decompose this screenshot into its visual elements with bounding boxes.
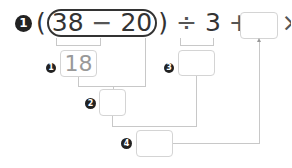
problem-number-badge: 1 bbox=[15, 15, 32, 32]
operand-a: 38 bbox=[52, 8, 84, 37]
divide-sign: ÷ bbox=[176, 8, 197, 37]
open-paren: ( bbox=[36, 8, 46, 37]
minus-sign: − bbox=[92, 8, 113, 37]
step-2-box[interactable] bbox=[99, 89, 126, 116]
close-paren: ) bbox=[158, 8, 168, 37]
step-3-badge: 3 bbox=[164, 63, 174, 73]
circled-subexpression: 38 − 20 bbox=[47, 9, 157, 37]
step-1-box[interactable]: 18 bbox=[60, 50, 97, 77]
step-4-box[interactable] bbox=[136, 130, 173, 157]
final-answer-box[interactable] bbox=[240, 12, 278, 39]
times-sign: × bbox=[282, 8, 292, 37]
operand-b: 20 bbox=[120, 8, 152, 37]
step-4-badge: 4 bbox=[121, 138, 132, 149]
operand-c: 3 bbox=[205, 8, 221, 37]
step-1-badge: 1 bbox=[46, 63, 56, 73]
arrow-up-icon bbox=[257, 38, 261, 42]
step-3-box[interactable] bbox=[178, 50, 215, 76]
step-2-badge: 2 bbox=[85, 98, 96, 109]
